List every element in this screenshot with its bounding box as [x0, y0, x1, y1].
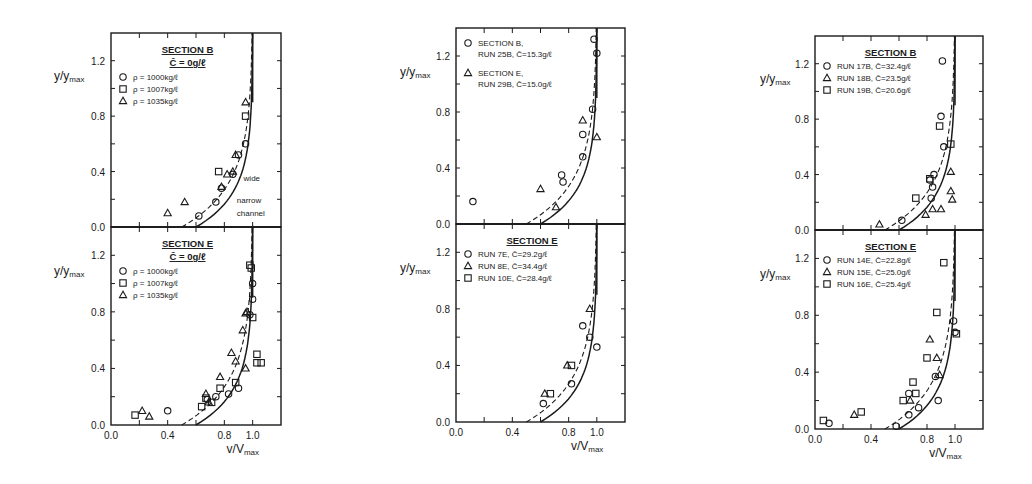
circle-marker [580, 131, 586, 137]
y-axis-label: y/ymax [54, 264, 84, 279]
section-subtitle: C̄ = 0g/ℓ [169, 251, 205, 262]
y-tick-label: 0.0 [436, 219, 450, 230]
triangle-marker [239, 326, 246, 332]
section-title: SECTION E [162, 238, 213, 249]
triangle-marker [119, 291, 126, 297]
square-marker [934, 309, 940, 315]
panel-right-bottom: 0.00.40.81.2y/ymaxSECTION ERUN 14E, C̄=2… [760, 230, 983, 461]
triangle-marker [936, 371, 943, 377]
circle-marker [540, 400, 546, 406]
square-marker [120, 280, 126, 286]
y-tick-label: 0.4 [795, 367, 809, 378]
triangle-marker [181, 198, 188, 204]
triangle-marker [933, 354, 940, 360]
y-tick-label: 0.4 [436, 360, 450, 371]
y-axis-label: y/ymax [54, 69, 84, 84]
legend-label: RUN 29B, C̄=15.0g/ℓ [478, 80, 552, 89]
x-tick-label: 0.0 [808, 434, 822, 445]
y-tick-label: 1.2 [91, 56, 105, 67]
section-title: SECTION B [162, 44, 214, 55]
x-axis-label: v/Vmax [571, 439, 603, 454]
circle-marker [935, 397, 941, 403]
x-tick-label: 0.4 [161, 430, 175, 441]
square-marker [913, 195, 919, 201]
circle-marker [938, 113, 944, 119]
triangle-marker [851, 411, 858, 417]
x-tick-label: 0.4 [505, 427, 519, 438]
triangle-marker [242, 98, 249, 104]
triangle-marker [202, 390, 209, 396]
legend-label: RUN 18B, C̄=23.5g/ℓ [837, 74, 911, 83]
y-tick-label: 0.8 [91, 307, 105, 318]
triangle-marker [949, 196, 956, 202]
triangle-marker [464, 69, 471, 75]
y-tick-label: 0.8 [436, 107, 450, 118]
x-tick-label: 0.0 [104, 430, 118, 441]
y-tick-label: 0.8 [91, 111, 105, 122]
triangle-marker [593, 133, 600, 139]
triangle-marker [537, 185, 544, 191]
legend-label: SECTION E, [478, 69, 523, 78]
section-subtitle: C̄ = 0g/ℓ [169, 57, 205, 68]
square-marker [120, 86, 126, 92]
x-axis-label: v/Vmax [929, 446, 961, 461]
triangle-marker [579, 117, 586, 123]
y-axis-label: y/ymax [760, 267, 790, 282]
legend-label: RUN 15E, C̄=25.0g/ℓ [837, 268, 911, 277]
circle-marker [120, 74, 126, 80]
legend-label: RUN 19B, C̄=20.6g/ℓ [837, 86, 911, 95]
square-marker [858, 409, 864, 415]
legend-label: RUN 25B, C̄=15.3g/ℓ [478, 50, 552, 59]
square-marker [941, 259, 947, 265]
legend-label: RUN 14E, C̄=22.8g/ℓ [837, 256, 911, 265]
circle-marker [580, 323, 586, 329]
square-marker [254, 360, 260, 366]
square-marker [132, 412, 138, 418]
y-tick-label: 0.4 [795, 170, 809, 181]
circle-marker [906, 390, 912, 396]
circle-marker [120, 268, 126, 274]
square-marker [824, 87, 830, 93]
triangle-marker [164, 209, 171, 215]
legend-label: ρ = 1035kg/ℓ [133, 291, 178, 300]
annotation-narrow: narrow [237, 196, 262, 205]
square-marker [254, 351, 260, 357]
y-tick-label: 1.2 [91, 250, 105, 261]
panel-left-top: 0.00.40.81.2y/ymaxSECTION BC̄ = 0g/ℓρ = … [54, 33, 281, 233]
triangle-marker [228, 349, 235, 355]
legend-label: ρ = 1007kg/ℓ [133, 279, 178, 288]
triangle-marker [907, 397, 914, 403]
panel-left-bottom: 0.00.40.81.2y/ymaxSECTION EC̄ = 0g/ℓρ = … [54, 227, 281, 457]
square-marker [936, 123, 942, 129]
annotation-wide: wide [243, 174, 261, 183]
circle-marker [824, 257, 830, 263]
section-title: SECTION E [506, 235, 557, 246]
circle-marker [824, 63, 830, 69]
x-tick-label: 0.8 [217, 430, 231, 441]
square-marker [913, 390, 919, 396]
circle-marker [906, 412, 912, 418]
x-tick-label: 0.0 [449, 427, 463, 438]
y-axis-label: y/ymax [400, 261, 430, 276]
triangle-marker [119, 97, 126, 103]
circle-marker [560, 179, 566, 185]
triangle-marker [876, 221, 883, 227]
y-tick-label: 0.8 [795, 114, 809, 125]
square-marker [910, 379, 916, 385]
square-marker [217, 385, 223, 391]
circle-marker [465, 251, 471, 257]
square-marker [215, 168, 221, 174]
y-tick-label: 0.4 [91, 363, 105, 374]
y-tick-label: 1.2 [795, 59, 809, 70]
triangle-marker [139, 407, 146, 413]
y-tick-label: 0.0 [795, 225, 809, 236]
x-tick-label: 1.0 [590, 427, 604, 438]
panel-middle-bottom: 0.00.40.81.2y/ymaxSECTION ERUN 7E, C̄=29… [400, 224, 625, 454]
y-axis-label: y/ymax [400, 65, 430, 80]
x-tick-label: 0.8 [562, 427, 576, 438]
circle-marker [929, 184, 935, 190]
circle-marker [164, 408, 170, 414]
triangle-marker [216, 373, 223, 379]
legend-label: ρ = 1035kg/ℓ [133, 97, 178, 106]
y-tick-label: 1.2 [436, 51, 450, 62]
